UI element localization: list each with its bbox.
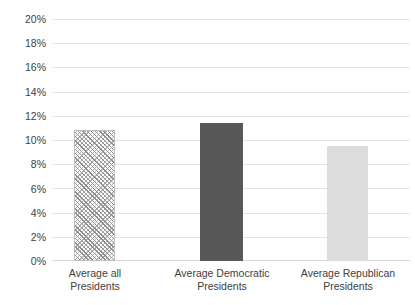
x-axis-tick-label-average-republican-presidents: Average Republican Presidents xyxy=(281,267,415,292)
x-axis-tick-label-average-democratic-presidents: Average Democratic Presidents xyxy=(155,267,289,292)
x-axis-tick-line2: Presidents xyxy=(28,280,162,293)
bar-chart: 20% 18% 16% 14% 12% 10% 8% 6% 4% 2% 0% A… xyxy=(0,0,415,305)
plot-area xyxy=(52,19,410,261)
y-axis-tick-label: 10% xyxy=(2,135,46,146)
x-axis-tick-line1: Average Republican xyxy=(281,267,415,280)
y-axis-tick-label: 6% xyxy=(2,184,46,195)
y-axis-tick-label: 16% xyxy=(2,62,46,73)
y-axis-tick-label: 8% xyxy=(2,159,46,170)
y-axis-tick-label: 4% xyxy=(2,208,46,219)
gridline xyxy=(52,116,410,117)
y-axis-tick-label: 12% xyxy=(2,111,46,122)
y-axis-tick-label: 18% xyxy=(2,38,46,49)
x-axis-tick-label-average-all-presidents: Average all Presidents xyxy=(28,267,162,292)
bar-average-republican-presidents[interactable] xyxy=(327,146,368,261)
gridline xyxy=(52,92,410,93)
y-axis-tick-label: 20% xyxy=(2,14,46,25)
x-axis-tick-line1: Average Democratic xyxy=(155,267,289,280)
bar-average-democratic-presidents[interactable] xyxy=(200,123,243,261)
bar-average-all-presidents[interactable] xyxy=(74,130,115,261)
gridline xyxy=(52,43,410,44)
x-axis-tick-line2: Presidents xyxy=(281,280,415,293)
y-axis-tick-label: 0% xyxy=(2,256,46,267)
gridline xyxy=(52,19,410,20)
y-axis-tick-label: 2% xyxy=(2,232,46,243)
y-axis-tick-label: 14% xyxy=(2,87,46,98)
x-axis-tick-line1: Average all xyxy=(28,267,162,280)
gridline xyxy=(52,67,410,68)
x-axis-tick-line2: Presidents xyxy=(155,280,289,293)
